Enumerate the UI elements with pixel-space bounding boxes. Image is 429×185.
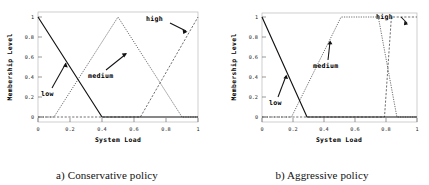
leader-line-low-a bbox=[52, 63, 66, 88]
x-tick-label: 0.4 bbox=[97, 126, 106, 132]
panel-caption-a: a) Conservative policy bbox=[0, 169, 214, 181]
x-tick-label: 0.2 bbox=[288, 126, 297, 132]
leader-line-medium-b bbox=[328, 42, 330, 60]
x-tick-label: 0 bbox=[260, 126, 263, 132]
y-tick-label: 1 bbox=[31, 14, 34, 20]
chart-a-svg: 0 0.2 0.4 0.6 0.8 1 0 0.2 bbox=[0, 0, 214, 150]
x-axis-ticks-b: 0 0.2 0.4 0.6 0.8 1 bbox=[260, 118, 418, 132]
x-tick-label: 0.6 bbox=[129, 126, 138, 132]
y-tick-label: 1 bbox=[255, 14, 258, 20]
x-tick-label: 1 bbox=[415, 126, 418, 132]
annotation-low-a: low bbox=[41, 90, 54, 98]
arrowhead-medium-b bbox=[328, 41, 333, 45]
series-medium-b bbox=[262, 17, 417, 117]
y-tick-label: 0 bbox=[31, 114, 34, 120]
y-axis-title-a: Membership Level bbox=[6, 33, 14, 100]
x-tick-label: 0 bbox=[36, 126, 39, 132]
leader-line-high-a bbox=[170, 23, 186, 31]
panel-aggressive-policy: 0 0.2 0.4 0.6 0.8 1 0 0.2 0.4 bbox=[215, 0, 429, 185]
y-tick-label: 0.2 bbox=[25, 94, 34, 100]
x-tick-label: 0.8 bbox=[381, 126, 390, 132]
plot-area-b: 0 0.2 0.4 0.6 0.8 1 0 0.2 0.4 bbox=[215, 0, 429, 150]
panel-conservative-policy: 0 0.2 0.4 0.6 0.8 1 0 0.2 bbox=[0, 0, 214, 185]
chart-b-svg: 0 0.2 0.4 0.6 0.8 1 0 0.2 0.4 bbox=[215, 0, 429, 150]
annotation-high-b: high bbox=[376, 13, 393, 21]
series-medium-a bbox=[38, 17, 198, 117]
y-axis-ticks-b: 0 0.2 0.4 0.6 0.8 1 bbox=[249, 14, 266, 120]
leader-line-medium-a bbox=[106, 54, 126, 70]
plot-frame-a bbox=[38, 12, 198, 122]
annotation-medium-a: medium bbox=[88, 72, 114, 80]
x-axis-ticks-a: 0 0.2 0.4 0.6 0.8 1 bbox=[36, 118, 199, 132]
x-tick-label: 1 bbox=[196, 126, 199, 132]
y-tick-label: 0.4 bbox=[249, 74, 258, 80]
series-high-a bbox=[38, 17, 198, 117]
plot-area-a: 0 0.2 0.4 0.6 0.8 1 0 0.2 bbox=[0, 0, 214, 150]
panel-caption-b: b) Aggressive policy bbox=[215, 169, 429, 181]
fuzzy-membership-figure: 0 0.2 0.4 0.6 0.8 1 0 0.2 bbox=[0, 0, 429, 185]
annotation-medium-b: medium bbox=[313, 62, 339, 70]
y-tick-label: 0.6 bbox=[25, 54, 34, 60]
x-tick-label: 0.8 bbox=[161, 126, 170, 132]
x-axis-title-b: System Load bbox=[316, 136, 362, 144]
x-tick-label: 0.2 bbox=[65, 126, 74, 132]
annotation-low-b: low bbox=[269, 99, 282, 107]
y-tick-label: 0 bbox=[255, 114, 258, 120]
y-tick-label: 0.6 bbox=[249, 54, 258, 60]
x-axis-title-a: System Load bbox=[95, 136, 141, 144]
x-tick-label: 0.6 bbox=[350, 126, 359, 132]
arrowhead-low-b bbox=[283, 75, 288, 79]
x-tick-label: 0.4 bbox=[319, 126, 328, 132]
y-tick-label: 0.8 bbox=[25, 34, 34, 40]
leader-line-high-b bbox=[401, 17, 407, 23]
y-tick-label: 0.2 bbox=[249, 94, 258, 100]
leader-line-low-b bbox=[278, 76, 286, 97]
y-axis-ticks-a: 0 0.2 0.4 0.6 0.8 1 bbox=[25, 14, 42, 120]
y-tick-label: 0.8 bbox=[249, 34, 258, 40]
annotation-high-a: high bbox=[146, 15, 163, 23]
y-tick-label: 0.4 bbox=[25, 74, 34, 80]
y-axis-title-b: Membership Level bbox=[230, 33, 238, 100]
series-low-a bbox=[38, 17, 198, 117]
